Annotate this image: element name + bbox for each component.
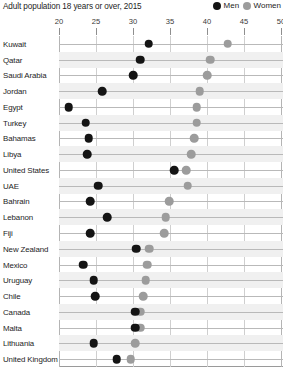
data-point-women	[206, 55, 215, 64]
data-point-men	[89, 276, 98, 285]
data-point-men	[86, 229, 95, 238]
gridline-horizontal	[59, 60, 283, 61]
chart-row: New Zealand	[0, 241, 283, 257]
x-axis-tick	[133, 28, 134, 35]
data-point-women	[192, 103, 201, 112]
chart-header: Adult population 18 years or over, 2015 …	[0, 0, 283, 17]
gridline-horizontal	[59, 123, 283, 124]
x-axis-tick	[281, 28, 282, 35]
category-label: Mexico	[3, 260, 27, 269]
gridline-horizontal	[59, 91, 283, 92]
chart-row: Chile	[0, 288, 283, 304]
x-axis-tick-label: 25	[92, 17, 100, 26]
chart-row: Bahamas	[0, 131, 283, 147]
data-point-women	[145, 244, 154, 253]
data-point-women	[183, 181, 192, 190]
x-axis-tick	[96, 28, 97, 35]
category-label: Bahrain	[3, 197, 30, 206]
chart-row: Jordan	[0, 83, 283, 99]
category-label: Chile	[3, 292, 20, 301]
x-axis-tick	[244, 28, 245, 35]
data-point-men	[83, 150, 92, 159]
chart-row: Bahrain	[0, 194, 283, 210]
chart-row: Egypt	[0, 99, 283, 115]
data-point-women	[143, 260, 152, 269]
data-point-men	[103, 213, 112, 222]
x-axis-tick-label: 30	[129, 17, 137, 26]
gridline-horizontal	[59, 186, 283, 187]
data-point-men	[86, 197, 95, 206]
gridline-horizontal	[59, 75, 283, 76]
x-axis: 20253035404550	[0, 17, 283, 38]
gridline-horizontal	[59, 217, 283, 218]
x-axis-tick-label: 50	[277, 17, 283, 26]
data-point-women	[126, 355, 135, 364]
data-point-men	[81, 118, 90, 127]
chart-row: United States	[0, 162, 283, 178]
data-point-women	[141, 276, 150, 285]
chart-row: Qatar	[0, 52, 283, 68]
gridline-horizontal	[59, 249, 283, 250]
chart-row: Libya	[0, 146, 283, 162]
chart-row: United Kingdom	[0, 351, 283, 367]
legend-item-women: Women	[243, 1, 281, 10]
data-point-men	[94, 181, 103, 190]
data-point-men	[64, 103, 73, 112]
x-axis-tick	[170, 28, 171, 35]
data-point-women	[223, 40, 232, 49]
data-point-women	[192, 118, 201, 127]
data-point-women	[160, 229, 169, 238]
data-point-men	[131, 308, 140, 317]
data-point-men	[136, 55, 145, 64]
category-label: Canada	[3, 307, 30, 316]
data-point-men	[91, 292, 100, 301]
data-point-men	[129, 71, 138, 80]
gridline-horizontal	[59, 265, 283, 266]
chart-legend: MenWomen	[213, 1, 281, 10]
data-point-men	[144, 40, 153, 49]
data-point-men	[170, 166, 179, 175]
category-label: Qatar	[3, 55, 22, 64]
gridline-horizontal	[59, 154, 283, 155]
gridline-horizontal	[59, 44, 283, 45]
chart-title: Adult population 18 years or over, 2015	[3, 2, 142, 11]
x-axis-tick-label: 35	[166, 17, 174, 26]
data-point-women	[203, 71, 212, 80]
data-point-women	[131, 339, 140, 348]
category-label: United Kingdom	[3, 355, 58, 364]
chart-row: UAE	[0, 178, 283, 194]
filled-circle-icon	[213, 2, 221, 10]
data-point-men	[131, 323, 140, 332]
gridline-horizontal	[59, 312, 283, 313]
category-label: Jordan	[3, 87, 27, 96]
category-label: Libya	[3, 150, 21, 159]
category-label: Malta	[3, 323, 22, 332]
data-point-men	[89, 339, 98, 348]
category-label: Lithuania	[3, 339, 34, 348]
chart-row: Kuwait	[0, 36, 283, 52]
legend-item-men: Men	[213, 1, 239, 10]
category-label: Egypt	[3, 102, 23, 111]
data-point-women	[182, 166, 191, 175]
category-label: Bahamas	[3, 134, 36, 143]
x-axis-tick-label: 20	[55, 17, 63, 26]
category-label: Saudi Arabia	[3, 71, 47, 80]
x-axis-tick	[207, 28, 208, 35]
dot-plot-chart: Adult population 18 years or over, 2015 …	[0, 0, 283, 367]
category-label: UAE	[3, 181, 19, 190]
filled-circle-icon	[243, 2, 251, 10]
data-point-men	[84, 134, 93, 143]
gridline-horizontal	[59, 359, 283, 360]
data-point-men	[98, 87, 107, 96]
data-point-men	[112, 355, 121, 364]
chart-row: Lebanon	[0, 209, 283, 225]
gridline-horizontal	[59, 328, 283, 329]
chart-row: Mexico	[0, 257, 283, 273]
data-point-women	[139, 292, 148, 301]
chart-row: Fiji	[0, 225, 283, 241]
chart-row: Malta	[0, 320, 283, 336]
x-axis-tick-label: 40	[203, 17, 211, 26]
category-label: Uruguay	[3, 276, 32, 285]
category-label: United States	[3, 165, 49, 174]
x-axis-tick-label: 45	[240, 17, 248, 26]
